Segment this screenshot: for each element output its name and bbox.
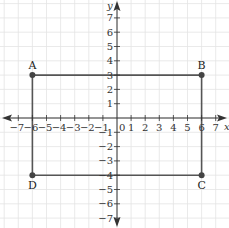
point-b: [199, 72, 205, 78]
x-tick-label: −7: [9, 122, 24, 133]
x-tick-label: 1: [128, 122, 134, 133]
y-tick-label: 1: [107, 98, 113, 109]
x-tick-label: 6: [198, 122, 204, 133]
grid: [0, 0, 229, 228]
x-tick-label: 5: [184, 122, 190, 133]
point-label-a: A: [27, 59, 37, 72]
x-tick-label: −6: [24, 122, 39, 133]
x-tick-label: −5: [38, 122, 53, 133]
x-tick-label: 4: [170, 122, 176, 133]
y-tick-label: −4: [98, 170, 113, 181]
y-tick-label: −2: [98, 141, 113, 152]
tick-labels: xy−7−6−5−4−3−2−112345677654321−1−2−3−4−5…: [9, 0, 229, 224]
y-tick-label: 7: [107, 12, 113, 23]
origin-label: 0: [119, 122, 125, 133]
y-tick-label: −1: [98, 127, 113, 138]
x-tick-label: 3: [156, 122, 162, 133]
axes: [2, 1, 227, 227]
point-c: [199, 172, 205, 178]
y-tick-label: 2: [107, 84, 113, 95]
point-label-d: D: [28, 179, 37, 192]
coordinate-plane-svg: xy−7−6−5−4−3−2−112345677654321−1−2−3−4−5…: [0, 0, 229, 228]
y-tick-label: −5: [98, 184, 113, 195]
point-a: [29, 72, 35, 78]
y-tick-label: −7: [98, 213, 113, 224]
x-tick-label: −4: [52, 122, 67, 133]
point-d: [29, 172, 35, 178]
y-tick-label: −6: [98, 198, 113, 209]
x-axis-label: x: [224, 121, 229, 132]
y-tick-label: 3: [107, 70, 113, 81]
y-tick-label: 6: [107, 27, 113, 38]
y-tick-label: −3: [98, 155, 113, 166]
x-tick-label: 7: [213, 122, 219, 133]
point-label-c: C: [197, 179, 205, 192]
x-tick-label: −3: [66, 122, 81, 133]
y-tick-label: 5: [107, 41, 113, 52]
y-axis-label: y: [106, 0, 113, 11]
point-label-b: B: [198, 59, 206, 72]
coordinate-plane: xy−7−6−5−4−3−2−112345677654321−1−2−3−4−5…: [0, 0, 229, 228]
x-tick-label: 2: [142, 122, 148, 133]
y-tick-label: 4: [107, 55, 113, 66]
x-tick-label: −2: [80, 122, 95, 133]
